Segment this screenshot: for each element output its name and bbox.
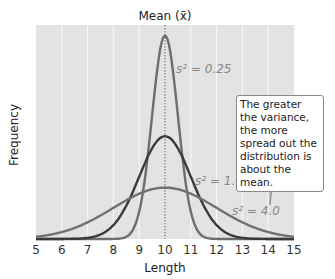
x-tick: 13: [235, 243, 250, 257]
x-tick: 8: [110, 243, 118, 257]
x-axis-label: Length: [144, 261, 185, 275]
x-tick: 7: [84, 243, 92, 257]
label-s4: s² = 4.0: [232, 204, 280, 218]
x-tick: 9: [135, 243, 143, 257]
x-tick: 15: [286, 243, 301, 257]
label-s025: s² = 0.25: [176, 62, 231, 76]
x-tick: 6: [58, 243, 66, 257]
x-tick: 12: [209, 243, 224, 257]
y-axis-label: Frequency: [7, 104, 21, 166]
mean-label: Mean (x̄): [139, 9, 192, 23]
x-tick: 14: [261, 243, 276, 257]
variance-callout: The greater the variance, the more sprea…: [236, 95, 324, 192]
x-tick: 10: [157, 243, 172, 257]
x-tick: 11: [183, 243, 198, 257]
x-tick: 5: [32, 243, 40, 257]
